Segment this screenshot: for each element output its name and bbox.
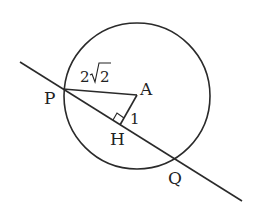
label-a: A (139, 79, 153, 99)
label-p: P (44, 88, 55, 108)
right-angle-mark (113, 113, 124, 120)
label-h: H (110, 129, 125, 149)
pa-coefficient: 2 (80, 68, 90, 86)
label-ah-length: 1 (130, 110, 140, 128)
label-q: Q (168, 168, 182, 188)
pa-radicand: 2 (100, 68, 110, 86)
geometry-diagram: P A H Q 1 2 2 (0, 0, 258, 211)
label-pa-length: 2 2 (80, 63, 111, 86)
segment-pa (63, 89, 137, 95)
